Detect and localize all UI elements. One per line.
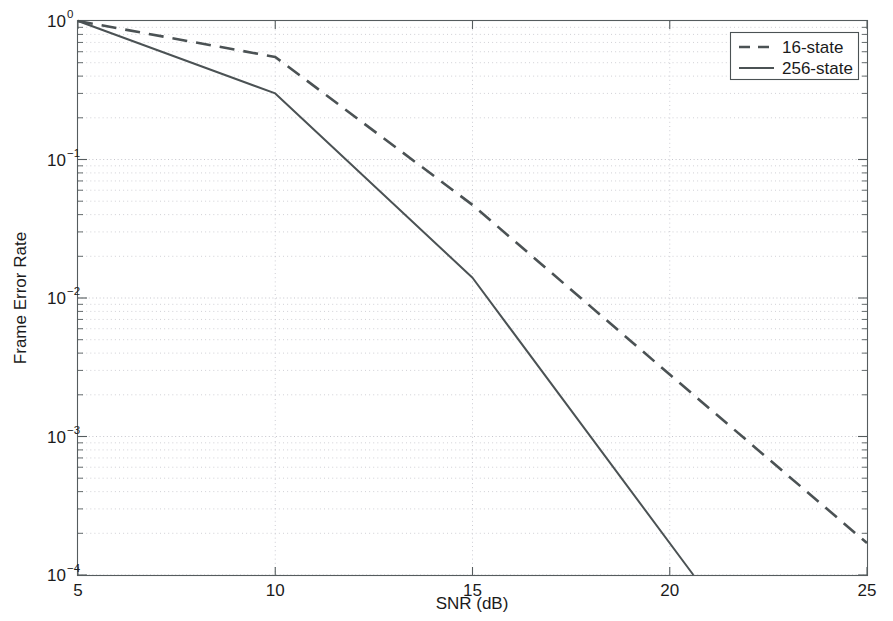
frame-error-rate-chart: 51015202510010−110−210−310−4 SNR (dB) Fr… (0, 0, 893, 621)
legend-label-16-state: 16-state (782, 38, 843, 57)
x-axis-label: SNR (dB) (436, 594, 509, 613)
figure-container: 51015202510010−110−210−310−4 SNR (dB) Fr… (0, 0, 893, 621)
y-tick-label-exponent: −4 (67, 562, 81, 574)
y-tick-label-exponent: −3 (67, 424, 80, 436)
y-tick-label: 100 (47, 8, 73, 31)
gridlines-group (78, 21, 867, 575)
y-tick-label-mantissa: 10 (47, 12, 66, 31)
y-tick-label: 10−2 (47, 285, 80, 308)
y-tick-label-exponent: −1 (67, 147, 80, 159)
y-tick-label-mantissa: 10 (47, 289, 66, 308)
tick-labels-group: 51015202510010−110−210−310−4 (47, 8, 876, 600)
y-tick-label-mantissa: 10 (47, 428, 66, 447)
y-tick-label: 10−1 (47, 147, 80, 170)
x-tick-label: 25 (858, 581, 877, 600)
x-tick-label: 20 (660, 581, 679, 600)
legend-label-256-state: 256-state (782, 59, 853, 78)
y-tick-label-exponent: 0 (67, 8, 73, 20)
y-tick-label-exponent: −2 (67, 285, 80, 297)
x-tick-label: 5 (73, 581, 82, 600)
y-axis-label: Frame Error Rate (11, 232, 30, 364)
x-tick-label: 10 (266, 581, 285, 600)
y-tick-label: 10−3 (47, 424, 80, 447)
legend[interactable]: 16-state 256-state (731, 33, 859, 80)
y-tick-label-mantissa: 10 (47, 151, 66, 170)
y-tick-label-mantissa: 10 (47, 566, 66, 585)
